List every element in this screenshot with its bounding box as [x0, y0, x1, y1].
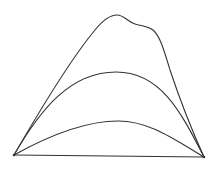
right-vertex — [203, 156, 206, 159]
left-vertex — [13, 154, 16, 157]
diagram-svg — [0, 0, 223, 177]
diagram-background — [0, 0, 223, 177]
curves-diagram — [0, 0, 223, 177]
